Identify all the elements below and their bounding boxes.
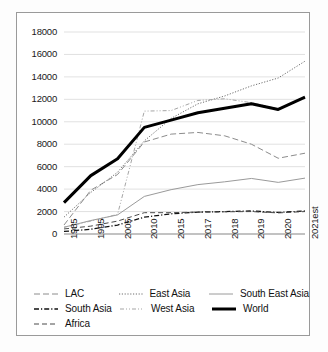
legend-key-icon [208, 289, 234, 299]
y-tick-label: 12000 [17, 94, 57, 104]
legend-label: World [243, 303, 268, 314]
chart-frame: 1800016000140001200010000800060004000200… [16, 12, 310, 336]
x-tick-label: 2021est [309, 207, 320, 239]
legend-label: South Asia [65, 303, 112, 314]
x-tick-label: 2018 [229, 219, 240, 239]
legend-row: South AsiaWest AsiaWorld [17, 301, 309, 316]
x-tick-label: 2015 [175, 219, 186, 239]
y-tick-label: 4000 [17, 184, 57, 194]
x-tick-label: 1995 [95, 219, 106, 239]
legend-item-africa: Africa [33, 318, 119, 329]
legend-item-west-asia: West Asia [119, 303, 211, 314]
legend-label: West Asia [151, 303, 194, 314]
y-tick-label: 8000 [17, 139, 57, 149]
legend-item-south-east-asia: South East Asia [208, 288, 309, 299]
legend-key-icon [33, 289, 59, 299]
legend-key-icon [118, 289, 144, 299]
plot-svg [17, 13, 309, 281]
legend-key-icon [33, 319, 59, 329]
legend-label: LAC [65, 288, 84, 299]
legend-label: Africa [65, 318, 90, 329]
series-line-lac [64, 132, 305, 225]
legend-item-south-asia: South Asia [33, 303, 119, 314]
y-tick-label: 2000 [17, 207, 57, 217]
legend-key-icon [211, 304, 237, 314]
x-tick-label: 2010 [148, 219, 159, 239]
y-tick-label: 6000 [17, 162, 57, 172]
legend-item-east-asia: East Asia [118, 288, 208, 299]
plot-area: 1800016000140001200010000800060004000200… [17, 13, 309, 281]
legend-row: LACEast AsiaSouth East Asia [17, 286, 309, 301]
x-tick-label: 2019 [255, 219, 266, 239]
legend-label: East Asia [150, 288, 191, 299]
legend-key-icon [33, 304, 59, 314]
chart-legend: LACEast AsiaSouth East AsiaSouth AsiaWes… [17, 286, 309, 331]
x-tick-label: 2017 [202, 219, 213, 239]
legend-key-icon [119, 304, 145, 314]
x-tick-label: 2020 [282, 219, 293, 239]
legend-row: Africa [17, 316, 309, 331]
line-chart: 1800016000140001200010000800060004000200… [0, 0, 328, 352]
y-tick-label: 16000 [17, 49, 57, 59]
x-tick-label: 2005 [122, 219, 133, 239]
y-tick-label: 18000 [17, 27, 57, 37]
legend-item-lac: LAC [33, 288, 118, 299]
x-tick-label: 1985 [68, 219, 79, 239]
y-tick-label: 14000 [17, 72, 57, 82]
legend-item-world: World [211, 303, 268, 314]
y-tick-label: 0 [17, 229, 57, 239]
legend-label: South East Asia [240, 288, 309, 299]
series-line-east-asia [64, 61, 305, 217]
y-tick-label: 10000 [17, 117, 57, 127]
